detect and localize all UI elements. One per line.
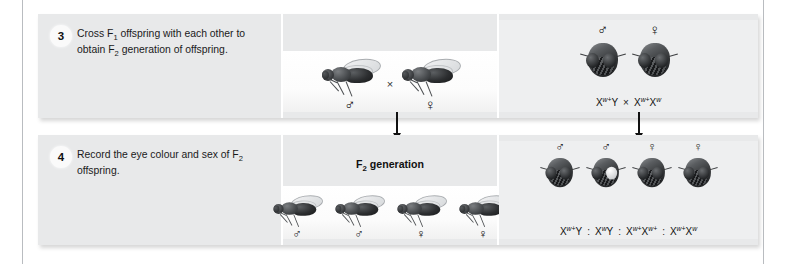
page-rule-right — [763, 0, 764, 264]
male-symbol-icon: ♂ — [292, 227, 301, 240]
step-4-middle-panel: F2 generation ♂ — [283, 135, 497, 245]
step-3-middle-panel: ♂ × ♀ — [283, 14, 497, 118]
male-symbol-icon: ♂ — [344, 97, 355, 112]
fly-side-icon — [271, 193, 323, 227]
fly-front-icon — [540, 155, 580, 193]
ratio-separator: : — [613, 226, 626, 237]
male-symbol-icon: ♂ — [555, 140, 565, 153]
step-row-3: 3 Cross F1 offspring with each other to … — [38, 14, 758, 118]
cross-separator: × — [618, 97, 634, 108]
step-3-right-fly-row: ♂ ♀ — [499, 22, 758, 83]
step-4-right-fly-4: ♀ — [678, 140, 718, 192]
step-4-right-fly-3: ♀ — [632, 140, 672, 192]
step-4-number: 4 — [50, 146, 72, 168]
genotype-f2-3: Xw+Xw+ — [626, 225, 657, 237]
female-symbol-icon: ♀ — [416, 227, 425, 240]
genotype-f2-4: Xw+Xw — [670, 225, 697, 237]
step-row-4: 4 Record the eye colour and sex of F2 of… — [38, 135, 758, 245]
fly-side-icon — [333, 193, 385, 227]
fly-front-icon — [632, 39, 678, 83]
step-4-genotype-ratio-row: Xw+Y : XwY : Xw+Xw+ : Xw+Xw — [499, 225, 758, 237]
fly-front-white-eye-icon — [586, 155, 626, 193]
female-symbol-icon: ♀ — [425, 97, 436, 112]
step-3-right-female-fly: ♀ — [632, 22, 678, 83]
step-3-right-male-fly: ♂ — [580, 22, 626, 83]
step-3-text-panel: 3 Cross F1 offspring with each other to … — [38, 14, 281, 118]
step-4-fly-2: ♂ — [333, 193, 385, 240]
page-rule-left — [22, 0, 23, 264]
fly-side-icon — [395, 193, 447, 227]
ratio-separator: : — [582, 226, 595, 237]
genotype-female-parent: Xw+Xw — [634, 96, 661, 108]
step-4-right-fly-1: ♂ — [540, 140, 580, 192]
ratio-separator: : — [657, 226, 670, 237]
step-3-female-fly-side: ♀ — [399, 56, 461, 112]
female-symbol-icon: ♀ — [693, 140, 703, 153]
female-symbol-icon: ♀ — [647, 140, 657, 153]
step-4-right-panel: ♂ ♂ — [499, 135, 758, 245]
fly-front-icon — [632, 155, 672, 193]
step-4-text-panel: 4 Record the eye colour and sex of F2 of… — [38, 135, 281, 245]
male-symbol-icon: ♂ — [597, 22, 608, 37]
step-4-fly-1: ♂ — [271, 193, 323, 240]
step-3-middle-cross-symbol: × — [381, 78, 399, 112]
step-3-right-panel: ♂ ♀ — [499, 14, 758, 118]
male-symbol-icon: ♂ — [601, 140, 611, 153]
step-3-genotype-row: Xw+Y × Xw+Xw — [499, 96, 758, 108]
step-3-number: 3 — [50, 25, 72, 47]
fly-side-icon — [399, 56, 461, 96]
step-4-fly-3: ♀ — [395, 193, 447, 240]
fly-front-icon — [580, 39, 626, 83]
genotype-f2-1: Xw+Y — [560, 225, 582, 237]
step-3-caption: Cross F1 offspring with each other to ob… — [77, 27, 273, 59]
step-3-middle-fly-row: ♂ × ♀ — [283, 56, 497, 112]
fly-side-icon — [319, 56, 381, 96]
step-4-right-fly-row: ♂ ♂ — [499, 140, 758, 201]
male-symbol-icon: ♂ — [354, 227, 363, 240]
fly-front-icon — [678, 155, 718, 193]
step-4-middle-fly-row: ♂ ♂ — [283, 184, 497, 240]
female-symbol-icon: ♀ — [649, 22, 660, 37]
genotype-f2-2: XwY — [595, 225, 613, 237]
f2-generation-title: F2 generation — [283, 158, 497, 173]
step-4-caption: Record the eye colour and sex of F2 offs… — [77, 148, 273, 178]
female-symbol-icon: ♀ — [478, 227, 487, 240]
genotype-male-parent: Xw+Y — [596, 96, 618, 108]
step-3-male-fly-side: ♂ — [319, 56, 381, 112]
figure-container: 3 Cross F1 offspring with each other to … — [0, 0, 797, 264]
step-4-right-fly-2: ♂ — [586, 140, 626, 192]
